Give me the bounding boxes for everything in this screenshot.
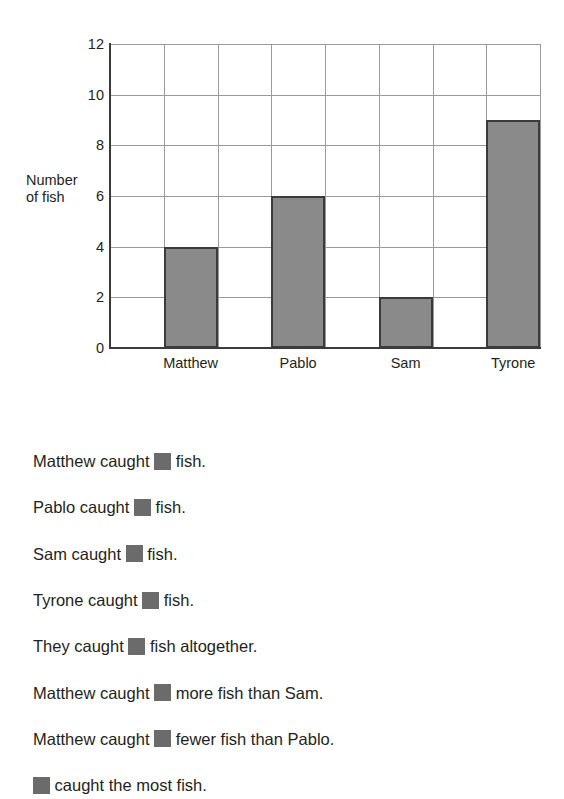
y-tick-label: 8 — [76, 138, 104, 153]
question-list: Matthew caught fish.Pablo caught fish.Sa… — [33, 438, 533, 799]
gridline-vertical — [218, 44, 219, 348]
answer-box[interactable] — [33, 777, 50, 794]
x-tick-label-sam: Sam — [346, 355, 466, 371]
y-tick-label: 0 — [76, 341, 104, 356]
y-tick-label: 4 — [76, 240, 104, 255]
question-text-before: Sam caught — [33, 544, 126, 564]
gridline-vertical — [325, 44, 326, 348]
y-tick-label: 2 — [76, 290, 104, 305]
question-text-after: fish. — [171, 451, 206, 471]
question-text-before: Tyrone caught — [33, 590, 142, 610]
y-tick-label: 12 — [76, 37, 104, 52]
y-tick-label: 10 — [76, 88, 104, 103]
question-text-after: fish. — [159, 590, 194, 610]
question-line: caught the most fish. — [33, 762, 533, 799]
x-tick-label-tyrone: Tyrone — [453, 355, 564, 371]
bar-matthew — [164, 247, 218, 348]
bar-chart-figure: Number of fish 024681012 MatthewPabloSam… — [0, 0, 564, 400]
y-axis-line — [109, 43, 111, 349]
answer-box[interactable] — [128, 638, 145, 655]
bar-tyrone — [486, 120, 540, 348]
question-text-before: Matthew caught — [33, 683, 154, 703]
question-text-before: They caught — [33, 636, 128, 656]
answer-box[interactable] — [142, 592, 159, 609]
answer-box[interactable] — [154, 684, 171, 701]
plot-area — [110, 44, 540, 348]
question-text-before: Matthew caught — [33, 451, 154, 471]
question-line: Tyrone caught fish. — [33, 577, 533, 623]
bar-pablo — [271, 196, 325, 348]
question-text-after: fewer fish than Pablo. — [171, 729, 334, 749]
question-text-after: fish. — [143, 544, 178, 564]
question-text-after: more fish than Sam. — [171, 683, 323, 703]
question-text-after: fish altogether. — [145, 636, 257, 656]
question-line: Matthew caught fewer fish than Pablo. — [33, 716, 533, 762]
question-text-after: fish. — [151, 497, 186, 517]
x-tick-label-pablo: Pablo — [238, 355, 358, 371]
answer-box[interactable] — [126, 545, 143, 562]
gridline-vertical — [540, 44, 541, 348]
answer-box[interactable] — [154, 453, 171, 470]
question-line: Pablo caught fish. — [33, 484, 533, 530]
x-tick-label-matthew: Matthew — [131, 355, 251, 371]
question-line: Matthew caught more fish than Sam. — [33, 669, 533, 715]
question-text-before: Pablo caught — [33, 497, 134, 517]
y-tick-label: 6 — [76, 189, 104, 204]
y-axis-tick-labels: 024681012 — [72, 0, 104, 400]
question-line: Sam caught fish. — [33, 531, 533, 577]
question-text-before: Matthew caught — [33, 729, 154, 749]
answer-box[interactable] — [134, 499, 151, 516]
question-text-after: caught the most fish. — [50, 775, 207, 795]
bar-sam — [379, 297, 433, 348]
x-axis-line — [109, 347, 541, 349]
question-line: They caught fish altogether. — [33, 623, 533, 669]
question-line: Matthew caught fish. — [33, 438, 533, 484]
answer-box[interactable] — [154, 730, 171, 747]
gridline-vertical — [433, 44, 434, 348]
